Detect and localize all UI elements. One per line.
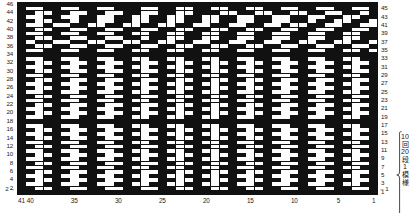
- pattern-cell[interactable]: [185, 36, 193, 40]
- pattern-cell[interactable]: [308, 120, 316, 124]
- pattern-cell[interactable]: [264, 103, 272, 107]
- pattern-cell[interactable]: [272, 15, 280, 19]
- pattern-cell[interactable]: [202, 57, 210, 61]
- pattern-cell[interactable]: [308, 99, 316, 103]
- pattern-cell[interactable]: [246, 120, 254, 124]
- pattern-cell[interactable]: [193, 187, 201, 191]
- pattern-cell[interactable]: [35, 19, 43, 23]
- pattern-cell[interactable]: [211, 15, 219, 19]
- pattern-cell[interactable]: [229, 120, 237, 124]
- pattern-cell[interactable]: [105, 107, 113, 111]
- pattern-cell[interactable]: [53, 120, 61, 124]
- pattern-cell[interactable]: [53, 28, 61, 32]
- pattern-cell[interactable]: [53, 166, 61, 170]
- pattern-cell[interactable]: [264, 182, 272, 186]
- pattern-cell[interactable]: [352, 7, 360, 11]
- pattern-cell[interactable]: [61, 40, 69, 44]
- pattern-cell[interactable]: [264, 90, 272, 94]
- pattern-cell[interactable]: [246, 61, 254, 65]
- pattern-cell[interactable]: [105, 57, 113, 61]
- pattern-cell[interactable]: [299, 19, 307, 23]
- pattern-cell[interactable]: [132, 69, 140, 73]
- pattern-cell[interactable]: [343, 103, 351, 107]
- pattern-cell[interactable]: [26, 107, 34, 111]
- pattern-cell[interactable]: [193, 69, 201, 73]
- pattern-cell[interactable]: [272, 69, 280, 73]
- pattern-cell[interactable]: [18, 82, 26, 86]
- pattern-cell[interactable]: [61, 15, 69, 19]
- pattern-cell[interactable]: [53, 49, 61, 53]
- pattern-cell[interactable]: [185, 11, 193, 15]
- pattern-cell[interactable]: [44, 174, 52, 178]
- pattern-cell[interactable]: [149, 32, 157, 36]
- pattern-cell[interactable]: [167, 61, 175, 65]
- pattern-cell[interactable]: [141, 166, 149, 170]
- pattern-cell[interactable]: [255, 191, 263, 195]
- pattern-cell[interactable]: [79, 191, 87, 195]
- pattern-cell[interactable]: [316, 23, 324, 27]
- pattern-cell[interactable]: [176, 57, 184, 61]
- pattern-cell[interactable]: [44, 103, 52, 107]
- pattern-cell[interactable]: [281, 95, 289, 99]
- pattern-cell[interactable]: [290, 103, 298, 107]
- pattern-cell[interactable]: [18, 136, 26, 140]
- pattern-cell[interactable]: [325, 15, 333, 19]
- pattern-cell[interactable]: [369, 11, 377, 15]
- pattern-cell[interactable]: [299, 7, 307, 11]
- pattern-cell[interactable]: [211, 69, 219, 73]
- pattern-cell[interactable]: [299, 103, 307, 107]
- pattern-cell[interactable]: [237, 82, 245, 86]
- pattern-cell[interactable]: [343, 19, 351, 23]
- pattern-cell[interactable]: [97, 90, 105, 94]
- pattern-cell[interactable]: [123, 149, 131, 153]
- pattern-cell[interactable]: [193, 44, 201, 48]
- pattern-cell[interactable]: [97, 170, 105, 174]
- pattern-cell[interactable]: [299, 78, 307, 82]
- pattern-cell[interactable]: [255, 99, 263, 103]
- pattern-cell[interactable]: [343, 3, 351, 7]
- pattern-cell[interactable]: [53, 157, 61, 161]
- pattern-cell[interactable]: [255, 187, 263, 191]
- pattern-cell[interactable]: [343, 174, 351, 178]
- pattern-cell[interactable]: [114, 44, 122, 48]
- pattern-cell[interactable]: [202, 149, 210, 153]
- pattern-cell[interactable]: [18, 28, 26, 32]
- pattern-cell[interactable]: [105, 115, 113, 119]
- pattern-cell[interactable]: [237, 111, 245, 115]
- pattern-cell[interactable]: [360, 145, 368, 149]
- pattern-cell[interactable]: [193, 86, 201, 90]
- pattern-cell[interactable]: [281, 90, 289, 94]
- pattern-cell[interactable]: [202, 82, 210, 86]
- pattern-cell[interactable]: [316, 182, 324, 186]
- pattern-cell[interactable]: [290, 90, 298, 94]
- pattern-cell[interactable]: [158, 149, 166, 153]
- pattern-cell[interactable]: [167, 132, 175, 136]
- pattern-cell[interactable]: [229, 107, 237, 111]
- pattern-cell[interactable]: [79, 90, 87, 94]
- pattern-cell[interactable]: [237, 174, 245, 178]
- pattern-cell[interactable]: [185, 32, 193, 36]
- pattern-cell[interactable]: [308, 23, 316, 27]
- pattern-cell[interactable]: [70, 170, 78, 174]
- pattern-cell[interactable]: [316, 90, 324, 94]
- pattern-cell[interactable]: [53, 153, 61, 157]
- pattern-cell[interactable]: [316, 187, 324, 191]
- pattern-cell[interactable]: [360, 7, 368, 11]
- pattern-cell[interactable]: [211, 145, 219, 149]
- pattern-cell[interactable]: [220, 69, 228, 73]
- pattern-cell[interactable]: [185, 28, 193, 32]
- pattern-cell[interactable]: [299, 23, 307, 27]
- pattern-cell[interactable]: [246, 128, 254, 132]
- pattern-cell[interactable]: [229, 61, 237, 65]
- pattern-cell[interactable]: [316, 124, 324, 128]
- pattern-cell[interactable]: [167, 162, 175, 166]
- pattern-cell[interactable]: [132, 53, 140, 57]
- pattern-cell[interactable]: [334, 162, 342, 166]
- pattern-cell[interactable]: [281, 136, 289, 140]
- pattern-cell[interactable]: [35, 145, 43, 149]
- pattern-cell[interactable]: [70, 174, 78, 178]
- pattern-cell[interactable]: [53, 78, 61, 82]
- pattern-cell[interactable]: [141, 82, 149, 86]
- pattern-cell[interactable]: [149, 111, 157, 115]
- pattern-cell[interactable]: [88, 120, 96, 124]
